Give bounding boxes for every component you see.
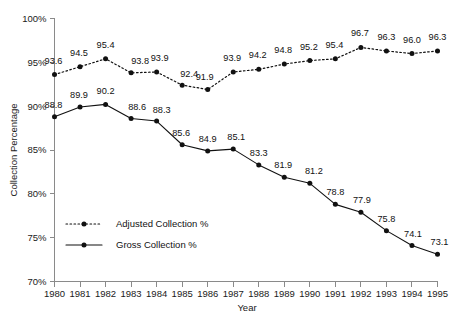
legend-item-label: Gross Collection %	[116, 239, 197, 250]
data-point	[256, 67, 261, 72]
data-point	[231, 147, 236, 152]
data-point	[103, 56, 108, 61]
data-point-label: 95.2	[300, 42, 318, 52]
series-line-1	[55, 47, 438, 89]
x-axis-tick-label: 1986	[197, 288, 218, 299]
x-axis-tick-label: 1993	[376, 288, 397, 299]
data-point	[282, 175, 287, 180]
data-point	[154, 69, 159, 74]
data-point-label: 88.6	[128, 102, 146, 112]
x-axis-tick-label: 1985	[172, 288, 193, 299]
data-point-label: 74.1	[404, 229, 422, 239]
legend-item-label: Adjusted Collection %	[116, 218, 209, 229]
legend-marker	[82, 243, 87, 248]
y-axis-tick-label: 70%	[27, 276, 47, 287]
legend-item: Adjusted Collection %	[66, 218, 209, 229]
data-point-label: 93.9	[223, 53, 241, 63]
data-point-label: 96.3	[429, 32, 447, 42]
data-point-label: 84.9	[199, 134, 217, 144]
data-point	[435, 48, 440, 53]
data-point-label: 94.5	[70, 48, 88, 58]
x-axis-title: Year	[237, 302, 256, 313]
data-point	[205, 148, 210, 153]
data-point	[180, 83, 185, 88]
y-axis-tick-label: 85%	[27, 144, 47, 155]
x-axis: 1980198119821983198419851986198719881989…	[44, 282, 448, 300]
data-point-label: 85.6	[172, 128, 190, 138]
data-point	[154, 119, 159, 124]
y-axis-title: Collection Percentage	[8, 104, 19, 197]
data-point-label: 75.8	[377, 214, 395, 224]
x-axis-tick-label: 1990	[299, 288, 320, 299]
x-axis-tick-label: 1980	[44, 288, 65, 299]
x-axis-tick-label: 1992	[350, 288, 371, 299]
data-point-label: 91.9	[196, 72, 214, 82]
data-point	[129, 70, 134, 75]
x-axis-tick-label: 1995	[427, 288, 448, 299]
data-point	[129, 116, 134, 121]
data-point	[256, 162, 261, 167]
data-point-label: 77.9	[353, 195, 371, 205]
data-point	[307, 58, 312, 63]
data-point-label: 94.2	[249, 50, 267, 60]
legend-item: Gross Collection %	[66, 239, 197, 250]
data-point-label: 81.2	[305, 166, 323, 176]
data-point-label: 95.4	[325, 40, 343, 50]
y-axis-tick-label: 75%	[27, 232, 47, 243]
data-point	[384, 228, 389, 233]
x-axis-tick-label: 1987	[223, 288, 244, 299]
data-point-label: 89.9	[70, 90, 88, 100]
x-axis-tick-label: 1991	[325, 288, 346, 299]
data-point-label: 96.3	[377, 32, 395, 42]
data-point-label: 93.6	[45, 56, 63, 66]
data-point-label: 96.7	[351, 28, 369, 38]
series-layer	[52, 45, 440, 257]
data-point	[78, 64, 83, 69]
data-point-label: 90.2	[97, 86, 115, 96]
data-point	[358, 210, 363, 215]
data-point	[78, 105, 83, 110]
data-point	[103, 102, 108, 107]
data-point	[409, 243, 414, 248]
data-point-label: 93.8	[131, 56, 149, 66]
data-point	[52, 72, 57, 77]
data-point	[435, 252, 440, 257]
data-point	[358, 45, 363, 50]
x-axis-tick-label: 1983	[121, 288, 142, 299]
data-point-label: 88.3	[153, 105, 171, 115]
y-axis-tick-label: 80%	[27, 188, 47, 199]
y-axis-tick-label: 100%	[22, 13, 47, 24]
data-point	[52, 114, 57, 119]
data-point-label: 83.3	[250, 148, 268, 158]
data-point-label: 93.9	[151, 53, 169, 63]
x-axis-tick-label: 1984	[146, 288, 167, 299]
y-axis: 70%75%80%85%90%95%100%	[22, 13, 54, 287]
data-point-label: 85.1	[227, 132, 245, 142]
data-point-label: 78.8	[326, 187, 344, 197]
data-point-label: 96.0	[403, 35, 421, 45]
data-point	[333, 202, 338, 207]
line-chart: 70%75%80%85%90%95%100% 19801981198219831…	[0, 0, 457, 318]
data-point	[384, 48, 389, 53]
data-point	[205, 87, 210, 92]
x-axis-tick-label: 1981	[69, 288, 90, 299]
data-point-label: 95.4	[97, 40, 115, 50]
data-point	[282, 62, 287, 67]
x-axis-tick-label: 1982	[95, 288, 116, 299]
legend-marker	[82, 222, 87, 227]
x-axis-tick-label: 1989	[274, 288, 295, 299]
chart-legend: Adjusted Collection %Gross Collection %	[66, 218, 209, 250]
data-point	[333, 56, 338, 61]
data-point-label: 81.9	[274, 160, 292, 170]
data-point-label: 88.8	[45, 100, 63, 110]
series-line-2	[55, 104, 438, 254]
data-point	[409, 51, 414, 56]
x-axis-tick-label: 1988	[248, 288, 269, 299]
data-point-label: 73.1	[431, 237, 449, 247]
data-point	[180, 142, 185, 147]
data-point-label: 94.8	[274, 45, 292, 55]
chart-container: 70%75%80%85%90%95%100% 19801981198219831…	[0, 0, 457, 318]
x-axis-tick-label: 1994	[401, 288, 422, 299]
data-point	[307, 181, 312, 186]
data-point	[231, 69, 236, 74]
